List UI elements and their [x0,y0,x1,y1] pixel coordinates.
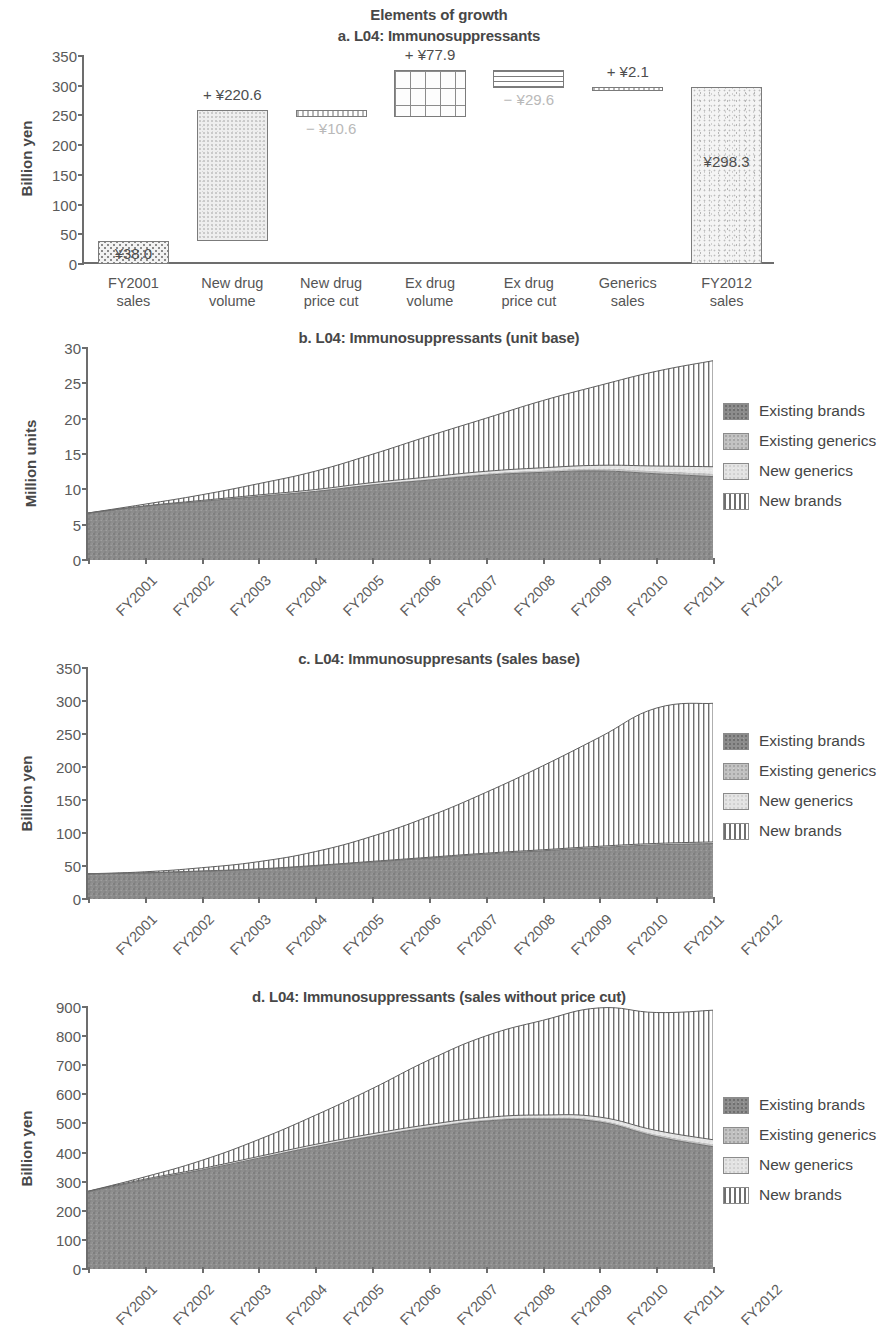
x-axis-category-line: Ex drug [405,274,455,292]
x-axis-tick-mark [258,558,260,564]
x-axis-tick-mark [202,897,204,903]
x-axis-tick-label: FY2002 [170,1281,217,1328]
y-axis-tick-label: 100 [52,196,77,213]
legend-label: Existing brands [759,402,865,420]
x-axis-category-label: Ex drugprice cut [501,274,556,310]
waterfall-delta-label: + ¥2.1 [607,63,649,80]
y-axis-tick-label: 400 [56,1144,81,1161]
x-axis-tick-label: FY2001 [113,911,160,958]
legend-label: New brands [759,1186,842,1204]
legend-item: New brands [723,1180,876,1210]
x-axis-tick-label: FY2001 [113,572,160,619]
x-axis-category-line: FY2001 [108,274,159,292]
legend-item: New generics [723,1150,876,1180]
panel-b-legend: Existing brandsExisting genericsNew gene… [723,396,876,516]
y-axis-tick-mark [78,233,84,235]
legend-label: New brands [759,822,842,840]
y-axis-tick-label: 250 [56,726,81,743]
x-axis-category-line: sales [701,292,752,310]
area-band [88,471,713,560]
y-axis-tick-label: 50 [60,226,77,243]
y-axis-tick-mark [78,55,84,57]
x-axis-category-label: Ex drugvolume [405,274,455,310]
x-axis-tick-mark [429,558,431,564]
panel-c-plot: 050100150200250300350FY2001FY2002FY2003F… [86,668,711,899]
x-axis-category-label: FY2012sales [701,274,752,310]
x-axis-tick-mark [599,1267,601,1273]
y-axis-tick-label: 200 [56,1202,81,1219]
x-axis-tick-label: FY2010 [624,572,671,619]
x-axis-category-label: New drugprice cut [300,274,362,310]
x-axis-tick-mark [429,1267,431,1273]
x-axis-tick-label: FY2004 [283,1281,330,1328]
x-axis-tick-mark [656,897,658,903]
y-axis-tick-label: 200 [56,759,81,776]
y-axis-tick-label: 150 [56,792,81,809]
y-axis-tick-label: 700 [56,1057,81,1074]
x-axis-tick-label: FY2004 [283,572,330,619]
y-axis-tick-mark [78,204,84,206]
x-axis-category-line: sales [599,292,657,310]
panel-d-ylabel: Billion yen [18,1074,35,1224]
y-axis-tick-mark [78,263,84,265]
x-axis-tick-label: FY2003 [227,1281,274,1328]
figure-root: Elements of growth a. L04: Immunosuppres… [0,0,878,1332]
legend-label: Existing generics [759,762,876,780]
y-axis-tick-label: 15 [64,446,81,463]
x-axis-tick-mark [599,897,601,903]
panel-a-plot: 050100150200250300350¥38.0FY2001sales+ ¥… [82,56,774,264]
waterfall-value-label: ¥38.0 [115,244,153,261]
x-axis-tick-label: FY2002 [170,572,217,619]
y-axis-tick-label: 350 [56,660,81,677]
y-axis-tick-label: 25 [64,375,81,392]
x-axis-category-line: Ex drug [501,274,556,292]
x-axis-tick-label: FY2011 [681,911,727,957]
waterfall-delta-label: − ¥10.6 [306,120,356,137]
x-axis-tick-mark [372,558,374,564]
x-axis-tick-label: FY2006 [397,572,444,619]
legend-swatch-exgen [723,763,749,780]
x-axis-tick-mark [713,1267,715,1273]
y-axis-tick-label: 5 [73,516,81,533]
waterfall-bar [296,110,367,116]
legend-swatch-exgen [723,1127,749,1144]
waterfall-value-label: ¥298.3 [704,153,750,170]
legend-label: New generics [759,1156,853,1174]
x-axis-tick-mark [372,1267,374,1273]
legend-item: New generics [723,456,876,486]
y-axis-tick-label: 10 [64,481,81,498]
x-axis-tick-label: FY2009 [567,572,614,619]
legend-label: Existing generics [759,432,876,450]
legend-swatch-exbrand [723,733,749,750]
y-axis-tick-label: 600 [56,1086,81,1103]
y-axis-tick-label: 0 [73,891,81,908]
legend-item: Existing brands [723,1090,876,1120]
y-axis-tick-label: 50 [64,858,81,875]
waterfall-delta-label: + ¥77.9 [405,46,455,63]
y-axis-tick-label: 800 [56,1028,81,1045]
legend-item: New brands [723,816,876,846]
x-axis-tick-label: FY2003 [227,572,274,619]
legend-swatch-newgen [723,1157,749,1174]
y-axis-tick-label: 0 [73,552,81,569]
waterfall-bar [493,70,564,88]
x-axis-tick-label: FY2012 [738,1281,785,1328]
x-axis-tick-label: FY2008 [511,572,558,619]
x-axis-category-line: Generics [599,274,657,292]
x-axis-tick-mark [656,558,658,564]
x-axis-tick-mark [258,1267,260,1273]
x-axis-tick-mark [88,558,90,564]
x-axis-tick-mark [543,897,545,903]
waterfall-bar [592,87,663,91]
panel-d-legend: Existing brandsExisting genericsNew gene… [723,1090,876,1210]
legend-swatch-newbrand [723,493,749,510]
panel-d-plot: 0100200300400500600700800900FY2001FY2002… [86,1007,711,1269]
legend-label: Existing generics [759,1126,876,1144]
legend-swatch-newbrand [723,1187,749,1204]
x-axis-tick-mark [372,897,374,903]
x-axis-tick-label: FY2009 [567,1281,614,1328]
x-axis-tick-label: FY2012 [738,911,785,958]
legend-item: Existing brands [723,396,876,426]
legend-swatch-newgen [723,793,749,810]
y-axis-tick-label: 0 [69,256,77,273]
